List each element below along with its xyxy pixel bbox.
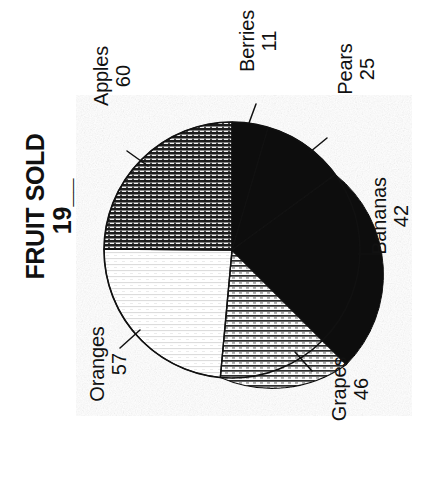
slice-label-berries: Berries 11 — [237, 0, 279, 101]
slice-label-grapes: Grapes 46 — [329, 329, 371, 449]
leader-pears — [310, 138, 327, 152]
pie-slice-apples[interactable] — [104, 122, 232, 250]
slice-label-apples-name: Apples — [91, 16, 111, 136]
slice-label-apples: Apples 60 — [91, 16, 133, 136]
slice-label-pears-name: Pears — [335, 9, 355, 129]
chart-canvas: FRUIT SOLD 19__ Berries 11 Pears 25 Bana… — [0, 0, 444, 496]
slice-label-bananas: Bananas 42 — [369, 156, 411, 276]
leader-berries — [249, 104, 256, 123]
slice-label-pears: Pears 25 — [335, 9, 377, 129]
chart-subtitle-year: 19__ — [49, 117, 75, 297]
slice-label-pears-value: 25 — [357, 9, 377, 129]
slice-label-apples-value: 60 — [113, 16, 133, 136]
chart-title: FRUIT SOLD — [22, 117, 48, 297]
slice-label-oranges: Oranges 57 — [87, 304, 129, 424]
slice-label-berries-name: Berries — [237, 0, 257, 101]
slice-label-oranges-name: Oranges — [87, 304, 107, 424]
slice-label-grapes-name: Grapes — [329, 329, 349, 449]
slice-label-bananas-value: 42 — [391, 156, 411, 276]
slice-label-grapes-value: 46 — [351, 329, 371, 449]
slice-label-bananas-name: Bananas — [369, 156, 389, 276]
slice-label-oranges-value: 57 — [109, 304, 129, 424]
slice-label-berries-value: 11 — [259, 0, 279, 101]
chart-title-block: FRUIT SOLD 19__ — [22, 117, 75, 297]
